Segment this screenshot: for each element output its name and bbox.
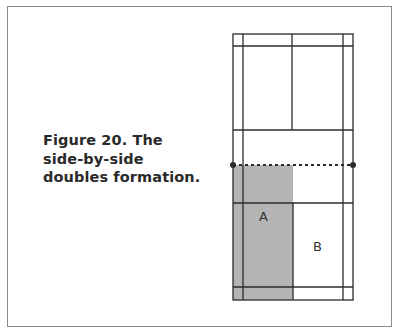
- player-b-label: B: [313, 239, 322, 254]
- net-post-right: [350, 162, 356, 168]
- badminton-court-diagram: A B: [0, 0, 400, 333]
- player-a-label: A: [259, 209, 268, 224]
- net-post-left: [230, 162, 236, 168]
- player-a-zone: [233, 165, 293, 300]
